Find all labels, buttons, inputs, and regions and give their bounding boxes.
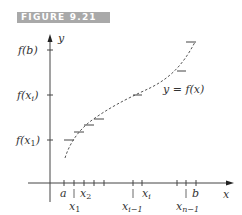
y-axis-label: y bbox=[57, 32, 65, 45]
y-label-fb: f(b) bbox=[17, 44, 38, 57]
x-axis-label: x bbox=[223, 188, 230, 201]
x-axis-arrow-icon bbox=[226, 181, 234, 186]
x-label-b: b bbox=[192, 187, 199, 200]
x-label-xn-1: xn−1 bbox=[176, 200, 199, 214]
x-label-xi-1: xi−1 bbox=[122, 200, 143, 214]
curve-label: y = f(x) bbox=[162, 83, 204, 96]
riemann-diagram: f(b) f(xi) f(x1) y x a x1 x2 xi−1 xi xn−… bbox=[0, 0, 242, 215]
x-label-x2: x2 bbox=[80, 187, 91, 201]
function-curve bbox=[65, 42, 195, 158]
x-label-x1: x1 bbox=[69, 200, 80, 214]
y-label-fx1: f(x1) bbox=[15, 134, 40, 148]
y-axis-arrow-icon bbox=[48, 34, 53, 42]
x-label-a: a bbox=[60, 187, 67, 200]
y-label-fxi: f(xi) bbox=[16, 89, 38, 103]
x-label-xi: xi bbox=[142, 187, 151, 201]
